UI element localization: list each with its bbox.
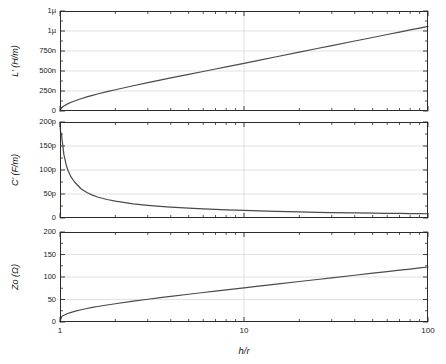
y-tick-label: 250n xyxy=(20,87,56,95)
panel-impedance xyxy=(60,232,428,322)
y-tick-label: 750n xyxy=(20,47,56,55)
x-tick-label: 100 xyxy=(421,327,434,335)
y-tick-label: 1µ xyxy=(20,27,56,35)
y-axis-label-inductance: L' (H/m) xyxy=(10,45,20,77)
figure-transmission-line-parameters: L' (H/m) 0250n500n750n1µ1µ C' (F/m) 050p… xyxy=(0,0,446,364)
y-tick-label: 500n xyxy=(20,67,56,75)
y-tick-label: 200p xyxy=(20,118,56,126)
y-axis-label-capacitance: C' (F/m) xyxy=(10,154,20,186)
y-tick-label: 100 xyxy=(20,273,56,281)
y-tick-label: 50 xyxy=(20,296,56,304)
panel-inductance xyxy=(60,11,428,111)
y-tick-label: 1µ xyxy=(20,7,56,15)
x-tick-label: 10 xyxy=(240,327,249,335)
axes-frame-impedance xyxy=(60,232,428,322)
panel-capacitance xyxy=(60,122,428,218)
y-tick-label: 0 xyxy=(20,318,56,326)
y-tick-label: 0 xyxy=(20,107,56,115)
y-tick-label: 100p xyxy=(20,166,56,174)
x-axis-label: h/r xyxy=(238,345,249,356)
y-tick-label: 150 xyxy=(20,251,56,259)
y-tick-label: 50p xyxy=(20,190,56,198)
axes-frame-capacitance xyxy=(60,122,428,218)
y-tick-label: 200 xyxy=(20,228,56,236)
y-tick-label: 150p xyxy=(20,142,56,150)
y-tick-label: 0 xyxy=(20,214,56,222)
x-tick-label: 1 xyxy=(58,327,62,335)
y-axis-label-impedance: Zo (Ω) xyxy=(10,264,20,290)
axes-frame-inductance xyxy=(60,11,428,111)
